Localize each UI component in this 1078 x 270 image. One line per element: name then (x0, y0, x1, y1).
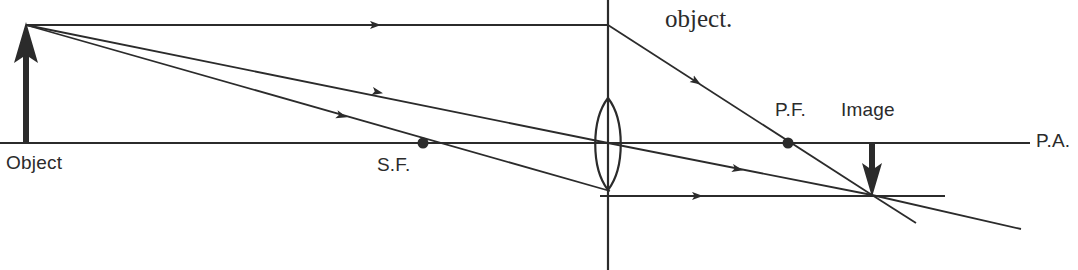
principal-axis-label: P.A. (1036, 131, 1070, 150)
ray-through-optical-centre-extension (872, 195, 1021, 229)
principal-focus-dot (783, 138, 794, 149)
ray-diagram-canvas: Object S.F. P.F. Image P.A. object. (0, 0, 1078, 270)
object-caption-fragment: object. (665, 6, 732, 31)
optics-diagram-svg (0, 0, 1078, 270)
object-label: Object (6, 153, 62, 172)
image-label: Image (841, 100, 895, 119)
principal-focus-label: P.F. (775, 100, 806, 119)
ray-through-optical-centre (26, 25, 608, 143)
ray-through-secondary-focus (26, 25, 610, 191)
secondary-focus-dot (418, 138, 429, 149)
secondary-focus-label: S.F. (377, 155, 411, 174)
